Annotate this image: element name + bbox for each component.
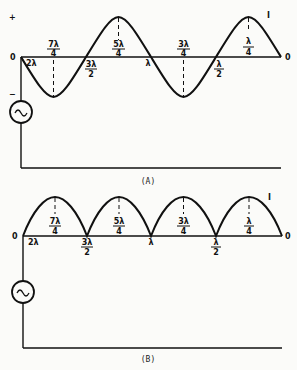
label-3l4-den: 4 xyxy=(181,49,187,58)
label-3l2-num: 3λ xyxy=(86,60,97,69)
origin-right-a: 0 xyxy=(285,53,291,62)
origin-right-b: 0 xyxy=(285,232,291,241)
origin-left-a: 0 xyxy=(10,53,16,62)
label-5l4-num: 5λ xyxy=(114,217,125,226)
label-3l2-den: 2 xyxy=(88,70,94,79)
label-7l4-num: 7λ xyxy=(48,40,59,49)
label-5l4-den: 4 xyxy=(116,49,122,58)
label-5l4-num: 5λ xyxy=(113,40,124,49)
label-l4-num: λ xyxy=(246,217,251,226)
caption-b: (B) xyxy=(141,355,155,364)
label-3l4-num: 3λ xyxy=(178,217,189,226)
label-7l4-den: 4 xyxy=(52,227,58,236)
plus-sign: + xyxy=(9,13,16,22)
label-l4-num: λ xyxy=(246,37,251,46)
label-l: λ xyxy=(148,238,153,247)
label-l2-den: 2 xyxy=(213,248,219,257)
label-7l4-num: 7λ xyxy=(50,217,61,226)
label-2l: 2λ xyxy=(28,238,39,247)
label-3l2-den: 2 xyxy=(84,248,90,257)
label-7l4-den: 4 xyxy=(51,49,57,58)
label-3l2-num: 3λ xyxy=(82,238,93,247)
sine-icon xyxy=(17,290,29,296)
label-2l: 2λ xyxy=(26,59,37,68)
current-label-a: I xyxy=(267,11,270,20)
figure-a-labels: + − 0 0 I 7λ 4 5λ 4 3λ 4 λ 4 2λ 3λ 2 λ λ… xyxy=(9,11,291,186)
current-label-b: I xyxy=(268,193,271,202)
label-l2-num: λ xyxy=(213,238,218,247)
standing-wave-diagram: + − 0 0 I 7λ 4 5λ 4 3λ 4 λ 4 2λ 3λ 2 λ λ… xyxy=(0,0,297,370)
label-l: λ xyxy=(145,59,150,68)
label-l4-den: 4 xyxy=(246,48,252,57)
label-3l4-den: 4 xyxy=(181,227,187,236)
minus-sign: − xyxy=(9,90,16,99)
caption-a: (A) xyxy=(141,177,155,186)
origin-left-b: 0 xyxy=(12,232,18,241)
label-5l4-den: 4 xyxy=(116,227,122,236)
figure-b-labels: 0 0 I 7λ 4 5λ 4 3λ 4 λ 4 2λ 3λ 2 λ λ 2 (… xyxy=(12,193,291,364)
label-l2-den: 2 xyxy=(216,70,222,79)
sine-icon xyxy=(15,110,27,116)
label-3l4-num: 3λ xyxy=(178,40,189,49)
label-l2-num: λ xyxy=(216,60,221,69)
label-l4-den: 4 xyxy=(246,227,252,236)
current-magnitude-b xyxy=(23,197,282,236)
